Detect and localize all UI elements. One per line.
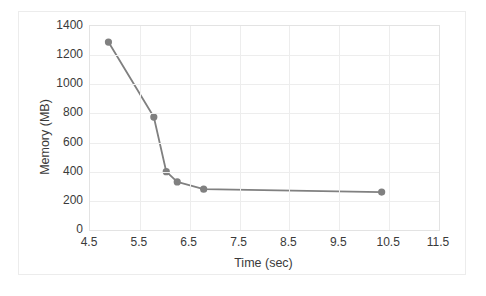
gridline-horizontal [90, 172, 439, 173]
gridline-vertical [339, 26, 340, 230]
x-axis-tick-label: 7.5 [214, 236, 264, 248]
gridline-vertical [240, 26, 241, 230]
x-axis-tick-label: 6.5 [164, 236, 214, 248]
y-axis-tick-label: 1400 [37, 19, 83, 31]
data-point-marker [200, 186, 207, 193]
y-axis-tick-label: 1000 [37, 77, 83, 89]
y-axis-tick-label: 600 [37, 136, 83, 148]
x-axis-tick-label: 4.5 [64, 236, 114, 248]
x-axis-tick-label: 10.5 [363, 236, 413, 248]
gridline-horizontal [90, 143, 439, 144]
x-axis-tick-labels: 4.55.56.57.58.59.510.511.5 [89, 236, 438, 252]
gridline-vertical [289, 26, 290, 230]
y-axis-tick-label: 800 [37, 106, 83, 118]
data-point-marker [105, 38, 112, 45]
gridline-horizontal [90, 113, 439, 114]
y-axis-tick-label: 400 [37, 165, 83, 177]
x-axis-tick-label: 5.5 [114, 236, 164, 248]
x-axis-title: Time (sec) [89, 256, 438, 270]
gridline-vertical [140, 26, 141, 230]
data-point-marker [378, 189, 385, 196]
y-axis-tick-labels: 0200400600800100012001400 [33, 25, 83, 229]
y-axis-tick-label: 0 [37, 223, 83, 235]
gridline-horizontal [90, 201, 439, 202]
y-axis-tick-label: 200 [37, 194, 83, 206]
data-point-marker [174, 178, 181, 185]
x-axis-tick-label: 11.5 [413, 236, 463, 248]
series-line [108, 42, 381, 192]
x-axis-tick-label: 8.5 [263, 236, 313, 248]
gridline-horizontal [90, 84, 439, 85]
y-axis-tick-label: 1200 [37, 48, 83, 60]
gridline-horizontal [90, 55, 439, 56]
plot-area [89, 25, 440, 231]
x-axis-tick-label: 9.5 [313, 236, 363, 248]
gridline-vertical [389, 26, 390, 230]
line-series-memory [90, 26, 439, 230]
chart-figure: Memory (MB) 0200400600800100012001400 4.… [18, 11, 466, 275]
data-point-marker [150, 113, 157, 120]
gridline-vertical [190, 26, 191, 230]
